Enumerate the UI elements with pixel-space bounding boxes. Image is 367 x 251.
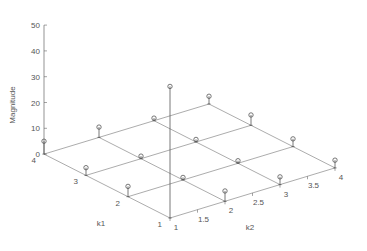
z-tick-label: 20 [31, 99, 40, 108]
k1-tick-label: 3 [74, 177, 79, 186]
k2-tick-label: 3 [284, 190, 289, 199]
k2-tick-label: 2.5 [253, 198, 265, 207]
k2-tick-label: 1 [174, 223, 179, 232]
grid-line [86, 125, 251, 175]
k2-tick-label: 3.5 [308, 181, 320, 190]
k2-axis-label: k2 [246, 223, 255, 232]
z-axis: 01020304050 [31, 21, 47, 159]
z-tick-label: 40 [31, 47, 40, 56]
k2-tick-label: 1.5 [198, 215, 210, 224]
z-tick-label: 0 [36, 150, 41, 159]
grid-line [44, 104, 209, 154]
k2-tick-label: 4 [339, 173, 344, 182]
floor-grid: 123411.522.533.54 [32, 104, 344, 232]
stems [42, 84, 337, 218]
grid-line [128, 147, 293, 197]
k2-tick-label: 2 [229, 206, 234, 215]
k1-tick-label: 1 [158, 220, 163, 229]
axis-labels: Magnitude k1 k2 [8, 86, 255, 232]
z-tick-label: 10 [31, 124, 40, 133]
z-tick-label: 30 [31, 73, 40, 82]
k1-tick-label: 2 [116, 199, 121, 208]
z-axis-label: Magnitude [8, 86, 17, 124]
z-tick-label: 50 [31, 21, 40, 30]
k1-axis-label: k1 [97, 219, 106, 228]
stem3-chart: 123411.522.533.54 01020304050 Magnitude … [0, 0, 367, 251]
